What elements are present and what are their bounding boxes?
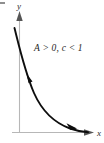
curve-direction-arrow-lower: [67, 123, 78, 130]
y-axis-arrowhead: [16, 11, 22, 21]
condition-annotation: A > 0, c < 1: [33, 43, 83, 53]
exponential-decay-figure: y x A > 0, c < 1: [0, 0, 104, 143]
corner-artifact-mark: [0, 2, 5, 4]
y-axis-label: y: [16, 1, 21, 11]
x-axis-label: x: [96, 128, 101, 138]
curve-direction-arrow-upper: [27, 74, 33, 84]
figure-canvas: y x A > 0, c < 1: [0, 0, 104, 143]
